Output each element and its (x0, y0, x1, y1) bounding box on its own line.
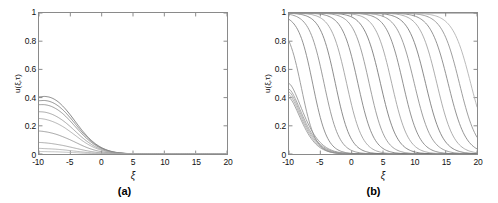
front-14 (289, 13, 477, 149)
front-13 (289, 13, 477, 153)
panel-b-caption: (b) (249, 185, 498, 197)
low-3 (289, 92, 477, 154)
panel-b-ytick-08: 0.8 (275, 36, 286, 46)
panel-b-xtick-15: 15 (442, 157, 451, 167)
panel-a-ytick-06: 0.6 (25, 64, 36, 74)
panel-a-y-ticks: 1 0.8 0.6 0.4 0.2 0 (2, 12, 36, 155)
panel-b-xtick-n5: -5 (316, 157, 323, 167)
panel-a: u(ξ,τ) 1 0.8 0.6 0.4 0.2 0 -10 -5 0 5 10… (0, 0, 249, 203)
panel-b-ytick-02: 0.2 (275, 121, 286, 131)
front-7 (289, 13, 477, 154)
front-1 (289, 41, 477, 154)
panel-a-xtick-20: 20 (223, 157, 232, 167)
panel-a-xtick-0: 0 (99, 157, 104, 167)
panel-b-x-ticks: -10 -5 0 5 10 15 20 (288, 157, 478, 171)
panel-b-curves (289, 13, 477, 154)
panel-b-x-axis-label: ξ (288, 170, 478, 181)
panel-a-plot-area (38, 12, 228, 155)
panel-a-xtick-n10: -10 (32, 157, 44, 167)
panel-a-ytick-02: 0.2 (25, 121, 36, 131)
panel-a-caption: (a) (0, 185, 249, 197)
panel-b-xtick-5: 5 (381, 157, 386, 167)
panel-a-curves (39, 13, 227, 154)
figure-two-panel: u(ξ,τ) 1 0.8 0.6 0.4 0.2 0 -10 -5 0 5 10… (0, 0, 498, 203)
panel-a-xtick-5: 5 (131, 157, 136, 167)
panel-b-y-ticks: 1 0.8 0.6 0.4 0.2 0 (252, 12, 286, 155)
panel-b-plot-area (288, 12, 478, 155)
panel-a-ytick-08: 0.8 (25, 36, 36, 46)
panel-b-ytick-04: 0.4 (275, 93, 286, 103)
panel-b-xtick-20: 20 (473, 157, 482, 167)
curve-1 (39, 96, 227, 154)
panel-a-ytick-1: 1 (31, 7, 36, 17)
panel-b-xtick-n10: -10 (282, 157, 294, 167)
panel-b: u(ξ,τ) 1 0.8 0.6 0.4 0.2 0 -10 -5 0 5 10… (249, 0, 498, 203)
panel-a-ytick-04: 0.4 (25, 93, 36, 103)
front-15 (289, 13, 477, 137)
panel-b-ytick-1: 1 (281, 7, 286, 17)
panel-a-x-ticks: -10 -5 0 5 10 15 20 (38, 157, 228, 171)
panel-b-xtick-10: 10 (410, 157, 419, 167)
panel-a-x-axis-label: ξ (38, 170, 228, 181)
panel-a-xtick-15: 15 (192, 157, 201, 167)
panel-b-ytick-06: 0.6 (275, 64, 286, 74)
panel-a-xtick-n5: -5 (66, 157, 73, 167)
panel-a-xtick-10: 10 (160, 157, 169, 167)
panel-b-xtick-0: 0 (349, 157, 354, 167)
